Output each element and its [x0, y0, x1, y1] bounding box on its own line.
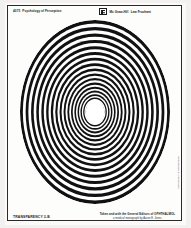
- transparency-label: TRANSPARENCY 3-B: [13, 215, 50, 219]
- concentric-ellipse-moire-target: [20, 20, 170, 204]
- header-left-group: 4075 Psychology of Perception: [13, 9, 62, 13]
- credit-line-1: Taken and with the General Editors of OP…: [100, 212, 175, 216]
- header-title: Psychology of Perception: [22, 9, 61, 13]
- margin-note-text: Reproduced by permission: [177, 156, 180, 188]
- screenshot-root: 4075 Psychology of Perception Mc Graw-Hi…: [0, 0, 191, 228]
- header-publisher-series: Mc Graw-Hill: [110, 10, 129, 14]
- header-author: Lew Fruchant: [131, 10, 151, 14]
- publisher-logo-icon: [99, 8, 107, 15]
- slide-footer: TRANSPARENCY 3-B Taken and with the Gene…: [9, 207, 180, 221]
- footer-credit-group: Taken and with the General Editors of OP…: [100, 212, 175, 220]
- ring-vector-graphic: [20, 20, 170, 204]
- margin-note: Reproduced by permission: [175, 150, 182, 194]
- slide-header: 4075 Psychology of Perception Mc Graw-Hi…: [9, 7, 180, 21]
- logo-bar-right: [103, 10, 105, 11]
- credit-line-2: a medical monograph by Aaron E. Jones: [100, 217, 175, 220]
- header-code: 4075: [13, 9, 20, 13]
- figure-area: [9, 19, 180, 204]
- header-right-group: Mc Graw-Hill Lew Fruchant: [99, 8, 151, 15]
